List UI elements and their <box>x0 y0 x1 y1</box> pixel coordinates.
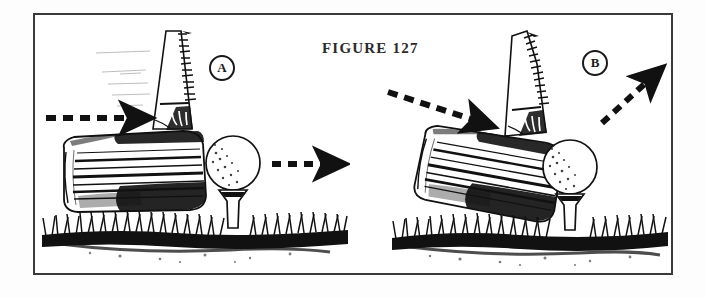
panel-label-b: B <box>582 50 608 76</box>
figure-caption: FIGURE 127 <box>322 40 419 57</box>
figure-page: FIGURE 127 A B <box>0 0 705 298</box>
panel-label-a: A <box>209 55 235 81</box>
